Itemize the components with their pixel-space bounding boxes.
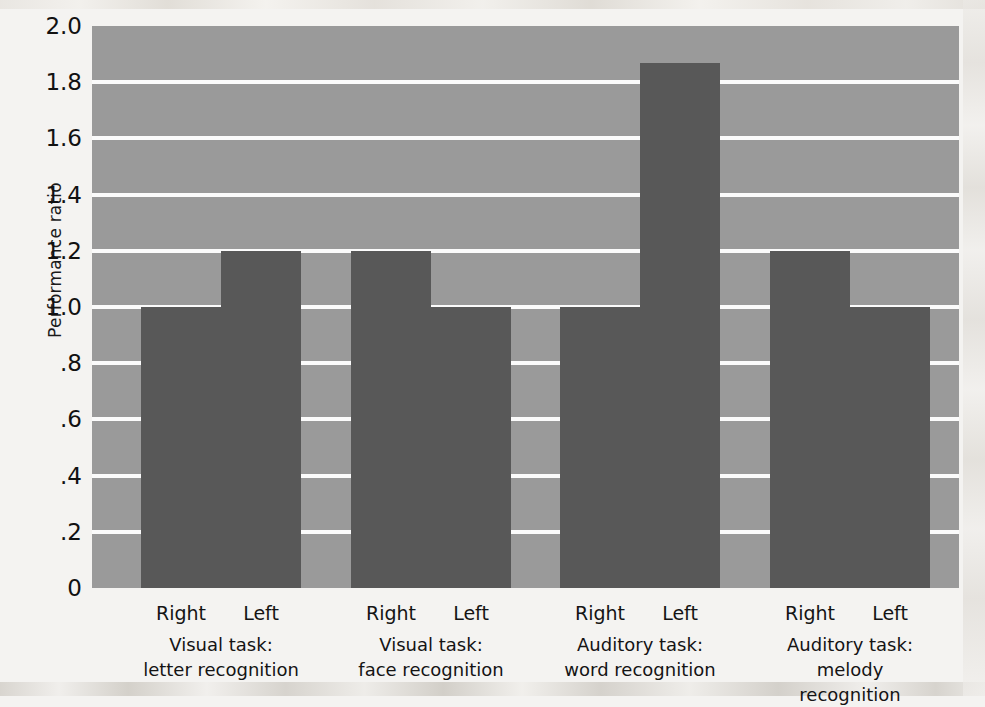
- x-axis-group-caption: Auditory task:melody recognition: [770, 632, 930, 707]
- x-axis-group: RightLeftVisual task:letter recognition: [141, 588, 301, 696]
- x-axis-group-caption-line2: melody recognition: [770, 657, 930, 707]
- x-axis-group-caption-line2: word recognition: [560, 657, 720, 682]
- x-axis-group: RightLeftAuditory task:melody recognitio…: [770, 588, 930, 696]
- plot-area: [92, 26, 959, 588]
- y-axis-tick-label: 1.4: [20, 183, 82, 206]
- bar: [221, 251, 301, 588]
- x-axis-side-label: Left: [850, 600, 930, 626]
- x-axis-group: RightLeftAuditory task:word recognition: [560, 588, 720, 696]
- x-axis-side-label: Right: [560, 600, 640, 626]
- bar: [770, 251, 850, 588]
- y-axis-tick-label: 2.0: [20, 15, 82, 38]
- x-axis-side-label: Left: [640, 600, 720, 626]
- y-axis-tick-label: .4: [20, 464, 82, 487]
- x-axis-side-label: Right: [770, 600, 850, 626]
- x-axis-group-caption: Visual task:letter recognition: [141, 632, 301, 682]
- y-axis-tick-labels: 2.01.81.61.41.21.0.8.6.4.20: [0, 0, 82, 696]
- x-axis-side-labels: RightLeft: [560, 600, 720, 626]
- x-axis-side-labels: RightLeft: [770, 600, 930, 626]
- y-axis-tick-label: .8: [20, 352, 82, 375]
- y-axis-tick-label: 1.2: [20, 239, 82, 262]
- x-axis-side-label: Left: [431, 600, 511, 626]
- y-axis-tick-label: 0: [20, 577, 82, 600]
- y-axis-tick-label: 1.8: [20, 71, 82, 94]
- x-axis-side-label: Right: [351, 600, 431, 626]
- bar: [141, 307, 221, 588]
- y-axis-tick-label: 1.6: [20, 127, 82, 150]
- y-axis-tick-label: .2: [20, 520, 82, 543]
- scan-artifact-right: [963, 0, 985, 696]
- bar: [431, 307, 511, 588]
- x-axis-group-caption-line1: Auditory task:: [560, 632, 720, 657]
- x-axis-side-label: Right: [141, 600, 221, 626]
- x-axis-side-label: Left: [221, 600, 301, 626]
- x-axis-group-caption-line2: face recognition: [351, 657, 511, 682]
- y-axis-tick-label: 1.0: [20, 296, 82, 319]
- x-axis-group-caption-line1: Visual task:: [351, 632, 511, 657]
- x-axis-group-caption: Auditory task:word recognition: [560, 632, 720, 682]
- x-axis-group-caption-line1: Auditory task:: [770, 632, 930, 657]
- bar: [850, 307, 930, 588]
- x-axis-side-labels: RightLeft: [141, 600, 301, 626]
- x-axis: RightLeftVisual task:letter recognitionR…: [92, 588, 959, 696]
- x-axis-side-labels: RightLeft: [351, 600, 511, 626]
- gridline: [92, 136, 959, 140]
- x-axis-group-caption-line1: Visual task:: [141, 632, 301, 657]
- bar: [351, 251, 431, 588]
- gridline: [92, 193, 959, 197]
- x-axis-group: RightLeftVisual task:face recognition: [351, 588, 511, 696]
- x-axis-group-caption: Visual task:face recognition: [351, 632, 511, 682]
- y-axis-tick-label: .6: [20, 408, 82, 431]
- bar: [640, 63, 720, 588]
- x-axis-group-caption-line2: letter recognition: [141, 657, 301, 682]
- scan-artifact-top: [0, 0, 985, 9]
- bar: [560, 307, 640, 588]
- gridline: [92, 80, 959, 84]
